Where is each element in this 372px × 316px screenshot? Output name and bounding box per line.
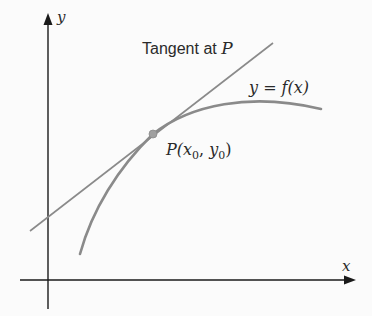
- curve-f: [80, 101, 321, 254]
- y-axis-label: y: [56, 8, 66, 26]
- point-label: P(x0, y0): [165, 140, 232, 162]
- y-axis-arrow-icon: [44, 13, 53, 25]
- point-p: [149, 130, 157, 138]
- x-axis-arrow-icon: [344, 276, 356, 285]
- tangent-label: Tangent at P: [142, 38, 233, 58]
- tangent-diagram: y x Tangent at P y = f(x) P(x0, y0): [0, 0, 372, 316]
- x-axis-label: x: [342, 257, 351, 275]
- curve-label: y = f(x): [248, 78, 309, 97]
